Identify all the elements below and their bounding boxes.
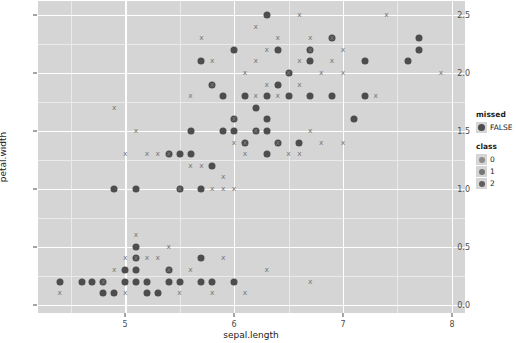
- data-point-circle: [143, 290, 150, 297]
- data-point-cross: x: [232, 139, 236, 147]
- data-point-cross: x: [265, 81, 269, 89]
- data-point-circle: [361, 93, 368, 100]
- gridline-major-y: [38, 305, 465, 306]
- data-point-circle: [176, 151, 183, 158]
- data-point-cross: x: [123, 255, 127, 263]
- data-point-circle: [187, 127, 194, 134]
- data-point-cross: x: [145, 150, 149, 158]
- data-point-cross: x: [265, 266, 269, 274]
- data-point-cross: x: [134, 232, 138, 240]
- legend-title-class: class: [476, 142, 516, 151]
- data-point-circle: [209, 278, 216, 285]
- data-point-circle: [263, 116, 270, 123]
- data-point-circle: [220, 127, 227, 134]
- data-point-cross: x: [319, 69, 323, 77]
- gridline-major-y: [38, 73, 465, 74]
- data-point-circle: [198, 255, 205, 262]
- x-tick-label: 7: [340, 320, 345, 329]
- data-point-circle: [89, 278, 96, 285]
- chart-root: xxxxxxxxxxxxxxxxxxxxxxxxxxxxxxxxxxxxxxxx…: [0, 0, 516, 343]
- data-point-cross: x: [123, 150, 127, 158]
- data-point-cross: x: [308, 34, 312, 42]
- data-point-cross: x: [297, 58, 301, 66]
- legend-item-missed-false[interactable]: FALSE: [476, 122, 516, 133]
- y-tick-label: 0.5: [457, 242, 470, 251]
- legend-label-missed-false: FALSE: [490, 123, 512, 132]
- y-tick-mark: [33, 72, 37, 73]
- data-point-cross: x: [254, 92, 258, 100]
- data-point-cross: x: [232, 185, 236, 193]
- y-axis-title: petal.width: [0, 132, 8, 182]
- data-point-cross: x: [210, 58, 214, 66]
- legend-item-class-1[interactable]: 1: [476, 166, 516, 177]
- data-point-cross: x: [210, 81, 214, 89]
- data-point-circle: [154, 290, 161, 297]
- gridline-minor-y: [38, 218, 465, 219]
- data-point-cross: x: [210, 185, 214, 193]
- data-point-cross: x: [177, 290, 181, 298]
- data-point-cross: x: [166, 266, 170, 274]
- data-point-cross: x: [112, 266, 116, 274]
- data-point-cross: x: [112, 104, 116, 112]
- x-tick-label: 5: [123, 320, 128, 329]
- data-point-cross: x: [373, 92, 377, 100]
- y-tick-label: 2.5: [457, 10, 470, 19]
- gridline-major-y: [38, 15, 465, 16]
- data-point-cross: x: [123, 290, 127, 298]
- data-point-cross: x: [275, 139, 279, 147]
- legend-group-class: class 0 1 2: [476, 142, 516, 189]
- data-point-circle: [198, 58, 205, 65]
- data-point-circle: [274, 81, 281, 88]
- data-point-cross: x: [254, 23, 258, 31]
- data-point-circle: [133, 185, 140, 192]
- data-point-cross: x: [199, 162, 203, 170]
- data-point-cross: x: [275, 92, 279, 100]
- legend-key-class-1: [476, 166, 487, 177]
- data-point-cross: x: [134, 127, 138, 135]
- legend-key-class-2: [476, 178, 487, 189]
- gridline-minor-y: [38, 44, 465, 45]
- data-point-circle: [133, 243, 140, 250]
- data-point-circle: [252, 104, 259, 111]
- data-point-cross: x: [439, 69, 443, 77]
- data-point-cross: x: [145, 255, 149, 263]
- y-tick-mark: [33, 246, 37, 247]
- data-point-cross: x: [297, 11, 301, 19]
- data-point-cross: x: [308, 278, 312, 286]
- data-point-cross: x: [156, 255, 160, 263]
- data-point-circle: [296, 139, 303, 146]
- y-tick-label: 1.5: [457, 126, 470, 135]
- data-point-cross: x: [166, 150, 170, 158]
- legend-label-class-1: 1: [490, 167, 495, 176]
- data-point-circle: [416, 46, 423, 53]
- data-point-circle: [263, 127, 270, 134]
- data-point-cross: x: [254, 58, 258, 66]
- y-tick-label: 0.0: [457, 300, 470, 309]
- data-point-cross: x: [232, 116, 236, 124]
- y-tick-mark: [33, 14, 37, 15]
- data-point-cross: x: [188, 92, 192, 100]
- gridline-minor-x: [71, 1, 72, 313]
- data-point-circle: [231, 46, 238, 53]
- data-point-cross: x: [341, 69, 345, 77]
- gridline-major-y: [38, 189, 465, 190]
- data-point-circle: [143, 278, 150, 285]
- data-point-circle: [329, 93, 336, 100]
- data-point-circle: [100, 290, 107, 297]
- data-point-circle: [111, 185, 118, 192]
- x-tick-mark: [451, 313, 452, 317]
- legend-key-missed-false: [476, 122, 487, 133]
- data-point-cross: x: [341, 139, 345, 147]
- data-point-circle: [416, 35, 423, 42]
- data-point-cross: x: [188, 162, 192, 170]
- data-point-cross: x: [156, 150, 160, 158]
- data-point-circle: [122, 278, 129, 285]
- data-point-circle: [198, 185, 205, 192]
- data-point-circle: [133, 267, 140, 274]
- legend-label-class-2: 2: [490, 179, 495, 188]
- data-point-circle: [231, 127, 238, 134]
- data-point-cross: x: [308, 46, 312, 54]
- legend-item-class-0[interactable]: 0: [476, 154, 516, 165]
- gridline-major-x: [452, 1, 453, 313]
- legend-item-class-2[interactable]: 2: [476, 178, 516, 189]
